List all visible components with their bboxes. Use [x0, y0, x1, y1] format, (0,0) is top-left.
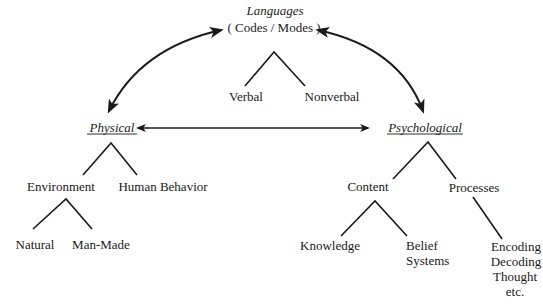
languages-subtitle: ( Codes / Modes )	[227, 20, 320, 35]
content-branch	[341, 201, 407, 236]
node-systems: Systems	[406, 253, 449, 268]
node-human-behavior: Human Behavior	[118, 179, 208, 194]
languages-title: Languages	[245, 3, 303, 18]
node-processes: Processes	[449, 180, 500, 195]
psychological-branch	[393, 142, 456, 179]
languages-branch	[245, 52, 305, 86]
node-belief: Belief	[406, 238, 438, 253]
node-verbal: Verbal	[229, 89, 263, 104]
node-nonverbal: Nonverbal	[305, 89, 360, 104]
node-etc: etc.	[506, 284, 524, 299]
processes-branch	[473, 197, 502, 239]
concept-diagram: Languages ( Codes / Modes ) Verbal Nonve…	[0, 0, 543, 306]
psychological-title: Psychological	[387, 120, 462, 135]
node-thought: Thought	[493, 269, 537, 284]
environment-branch	[33, 199, 92, 229]
node-environment: Environment	[27, 179, 95, 194]
node-man-made: Man-Made	[72, 237, 130, 252]
physical-branch	[83, 143, 137, 175]
node-encoding: Encoding	[491, 239, 541, 254]
node-natural: Natural	[16, 237, 55, 252]
physical-title: Physical	[89, 120, 135, 135]
node-knowledge: Knowledge	[300, 238, 360, 253]
arrow-languages-physical	[109, 30, 221, 111]
node-content: Content	[347, 179, 389, 194]
node-decoding: Decoding	[491, 254, 542, 269]
